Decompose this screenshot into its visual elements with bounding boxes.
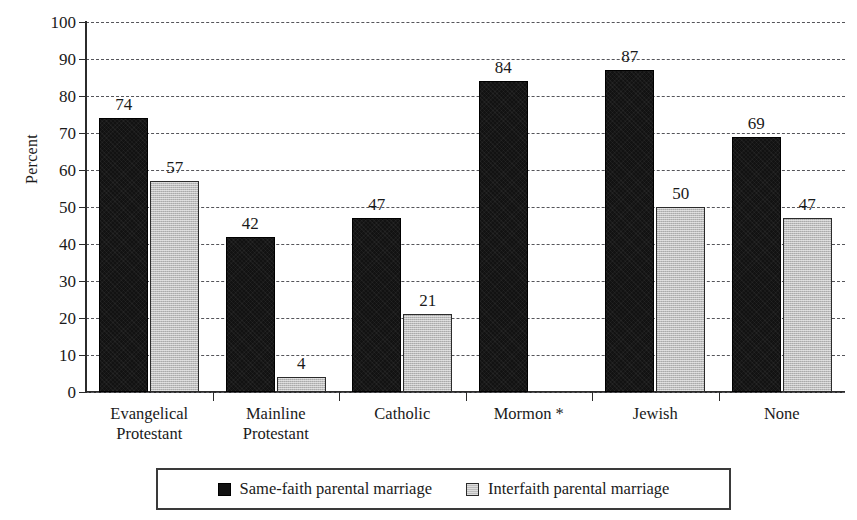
- bar-same-faith: [352, 218, 401, 392]
- bar-value-label: 21: [419, 291, 436, 311]
- x-category-tick: [719, 392, 720, 401]
- y-tick-label: 60: [59, 161, 76, 181]
- bar-value-label: 74: [115, 95, 132, 115]
- y-tick-label: 70: [59, 124, 76, 144]
- x-category-label: EvangelicalProtestant: [110, 404, 188, 444]
- x-category-label-line: Mainline: [243, 404, 309, 424]
- bar-value-label: 47: [368, 195, 385, 215]
- bar-value-label: 84: [495, 58, 512, 78]
- x-category-tick: [339, 392, 340, 401]
- y-tick-label: 90: [59, 50, 76, 70]
- x-category-label-line: Mormon *: [494, 404, 564, 424]
- bar-value-label: 4: [297, 354, 306, 374]
- x-category-label-line: Evangelical: [110, 404, 188, 424]
- bar-chart: Percent 0102030405060708090100 745742447…: [0, 0, 857, 520]
- bar-same-faith: [479, 81, 528, 392]
- bar-same-faith: [605, 70, 654, 392]
- legend-label-interfaith: Interfaith parental marriage: [488, 479, 669, 499]
- y-tick-label: 80: [59, 87, 76, 107]
- y-tick-label: 20: [59, 309, 76, 329]
- bar-value-label: 42: [242, 214, 259, 234]
- bar-value-label: 69: [748, 114, 765, 134]
- x-category-label-line: None: [764, 404, 800, 424]
- x-category-label: MainlineProtestant: [243, 404, 309, 444]
- x-category-label-line: Protestant: [110, 424, 188, 444]
- x-category-tick: [213, 392, 214, 401]
- x-category-label: Catholic: [374, 404, 430, 424]
- y-tick-label: 30: [59, 272, 76, 292]
- y-tick-label: 40: [59, 235, 76, 255]
- x-category-label: Jewish: [633, 404, 678, 424]
- x-category-label: None: [764, 404, 800, 424]
- legend-item-interfaith: Interfaith parental marriage: [466, 479, 669, 499]
- chart-legend: Same-faith parental marriage Interfaith …: [156, 468, 731, 510]
- x-category-label-line: Catholic: [374, 404, 430, 424]
- bar-value-label: 87: [621, 47, 638, 67]
- bar-value-label: 47: [799, 195, 816, 215]
- y-tick-mark: [79, 392, 87, 393]
- x-category-label-line: Protestant: [243, 424, 309, 444]
- plot-area: 0102030405060708090100 74574244721848750…: [86, 22, 845, 392]
- y-tick-label: 10: [59, 346, 76, 366]
- bar-same-faith: [226, 237, 275, 392]
- y-tick-label: 0: [68, 383, 77, 403]
- bar-interfaith: [656, 207, 705, 392]
- bar-interfaith: [150, 181, 199, 392]
- bar-value-label: 50: [672, 184, 689, 204]
- x-category-tick: [466, 392, 467, 401]
- y-tick-label: 50: [59, 198, 76, 218]
- y-axis-title: Percent: [23, 99, 41, 219]
- x-category-tick: [592, 392, 593, 401]
- bar-same-faith: [732, 137, 781, 392]
- bar-value-label: 57: [166, 158, 183, 178]
- bar-interfaith: [403, 314, 452, 392]
- legend-swatch-dark-icon: [218, 483, 231, 496]
- y-tick-label: 100: [51, 13, 77, 33]
- x-category-label-line: Jewish: [633, 404, 678, 424]
- x-category-label: Mormon *: [494, 404, 564, 424]
- legend-item-same-faith: Same-faith parental marriage: [218, 479, 432, 499]
- legend-swatch-light-icon: [466, 483, 479, 496]
- bar-interfaith: [783, 218, 832, 392]
- legend-label-same-faith: Same-faith parental marriage: [240, 479, 432, 499]
- bars-group: [86, 22, 845, 392]
- bar-interfaith: [277, 377, 326, 392]
- bar-same-faith: [99, 118, 148, 392]
